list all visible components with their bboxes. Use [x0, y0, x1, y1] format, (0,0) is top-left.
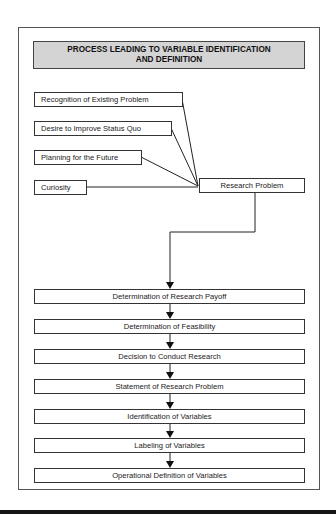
step-box: Labeling of Variables	[34, 438, 305, 453]
input-label: Desire to Improve Status Quo	[41, 124, 141, 133]
input-label: Planning for the Future	[41, 153, 118, 162]
step-label: Operational Definition of Variables	[112, 471, 227, 480]
hub-label: Research Problem	[221, 181, 284, 190]
step-box: Determination of Feasibility	[34, 319, 305, 334]
step-label: Statement of Research Problem	[115, 382, 223, 391]
step-box: Identification of Variables	[34, 409, 305, 424]
connector-desire	[171, 128, 198, 186]
step-label: Decision to Conduct Research	[118, 352, 221, 361]
connector-recognition	[182, 99, 198, 186]
hub-research-problem: Research Problem	[199, 178, 305, 193]
input-recognition: Recognition of Existing Problem	[34, 92, 183, 107]
horizontal-rule	[0, 510, 336, 514]
step-box: Decision to Conduct Research	[34, 349, 305, 364]
step-box: Determination of Research Payoff	[34, 289, 305, 304]
step-box: Statement of Research Problem	[34, 379, 305, 394]
step-label: Determination of Feasibility	[124, 322, 216, 331]
input-label: Recognition of Existing Problem	[41, 95, 149, 104]
input-label: Curiosity	[41, 183, 71, 192]
input-desire: Desire to Improve Status Quo	[34, 121, 172, 136]
step-label: Determination of Research Payoff	[113, 292, 227, 301]
input-planning: Planning for the Future	[34, 150, 142, 165]
step-label: Identification of Variables	[127, 412, 211, 421]
input-curiosity: Curiosity	[34, 180, 87, 195]
step-box: Operational Definition of Variables	[34, 468, 305, 483]
connector-planning	[141, 157, 198, 186]
step-label: Labeling of Variables	[134, 441, 204, 450]
connector-hub-to-steps	[170, 193, 255, 283]
